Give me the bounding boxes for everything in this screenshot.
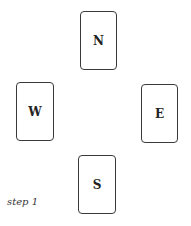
card-south: S (78, 155, 116, 214)
step-caption: step 1 (7, 196, 38, 207)
card-east-label: E (155, 107, 164, 121)
card-west: W (16, 82, 54, 141)
card-west-label: W (28, 105, 41, 119)
card-east: E (141, 84, 178, 143)
card-north-label: N (93, 34, 104, 48)
card-north: N (80, 11, 117, 70)
card-south-label: S (93, 178, 102, 192)
